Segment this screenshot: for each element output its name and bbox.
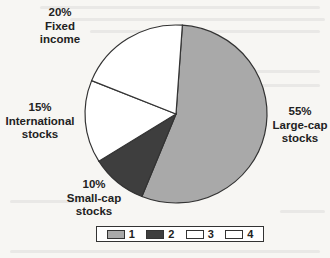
chart-legend: 1 2 3 4	[96, 226, 264, 242]
label-small-cap-stocks: 10%Small-capstocks	[56, 178, 132, 219]
legend-item-1: 1	[107, 228, 135, 240]
legend-item-3: 3	[186, 228, 214, 240]
legend-swatch-2	[146, 230, 164, 239]
legend-swatch-3	[186, 230, 204, 239]
label-large-cap-stocks: 55%Large-capstocks	[265, 105, 330, 146]
legend-item-4: 4	[225, 228, 253, 240]
legend-swatch-1	[107, 230, 125, 239]
legend-swatch-4	[225, 230, 243, 239]
legend-item-2: 2	[146, 228, 174, 240]
label-fixed-income: 20%Fixedincome	[18, 6, 102, 47]
label-international-stocks: 15%Internationalstocks	[0, 101, 80, 142]
